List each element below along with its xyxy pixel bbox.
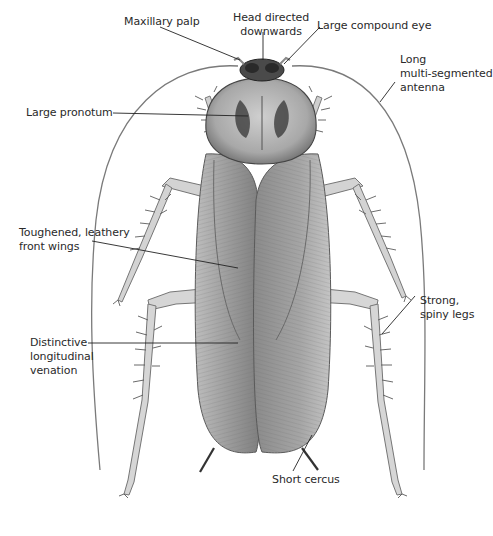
- label-legs-line2: spiny legs: [420, 308, 474, 322]
- label-legs-line1: Strong,: [420, 294, 474, 308]
- label-maxillary-palp: Maxillary palp: [124, 15, 200, 29]
- label-large-pronotum: Large pronotum: [26, 106, 113, 120]
- label-antenna-line3: antenna: [400, 81, 493, 95]
- label-antenna-line1: Long: [400, 53, 493, 67]
- label-venation-line3: venation: [30, 364, 94, 378]
- label-front-wings: Toughened, leathery front wings: [19, 226, 130, 254]
- label-long-antenna: Long multi-segmented antenna: [400, 53, 493, 95]
- label-venation-line1: Distinctive: [30, 336, 94, 350]
- pronotum: [206, 78, 316, 164]
- label-wings-line2: front wings: [19, 240, 130, 254]
- head: [234, 58, 290, 81]
- label-wings-line1: Toughened, leathery: [19, 226, 130, 240]
- label-short-cercus: Short cercus: [272, 473, 340, 487]
- label-spiny-legs: Strong, spiny legs: [420, 294, 474, 322]
- label-head-directed-downwards: Head directed downwards: [233, 11, 309, 39]
- label-large-compound-eye: Large compound eye: [317, 19, 431, 33]
- label-venation-line2: longitudinal: [30, 350, 94, 364]
- label-head-line1: Head directed: [233, 11, 309, 25]
- label-antenna-line2: multi-segmented: [400, 67, 493, 81]
- label-head-line2: downwards: [233, 25, 309, 39]
- label-longitudinal-venation: Distinctive longitudinal venation: [30, 336, 94, 378]
- front-wings: [195, 154, 331, 453]
